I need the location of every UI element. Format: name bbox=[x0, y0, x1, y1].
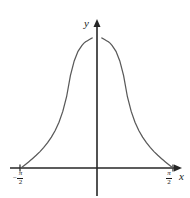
fraction-denominator: 2 bbox=[166, 179, 172, 186]
fraction: π 2 bbox=[17, 170, 23, 186]
fraction: π 2 bbox=[166, 170, 172, 186]
x-axis-label: x bbox=[179, 171, 184, 182]
curve-right-branch bbox=[102, 38, 173, 168]
plot-canvas bbox=[0, 0, 190, 198]
minus-sign: − bbox=[13, 175, 17, 182]
y-axis-label: y bbox=[84, 18, 89, 29]
x-axis bbox=[10, 165, 182, 172]
tick-label-positive-half-pi: π 2 bbox=[166, 170, 172, 186]
y-axis bbox=[94, 19, 101, 196]
fraction-denominator: 2 bbox=[18, 179, 24, 186]
graph-figure: y x − π 2 π 2 bbox=[0, 0, 190, 198]
curve-left-branch bbox=[21, 38, 92, 168]
fraction-numerator: π bbox=[18, 170, 24, 177]
tick-label-negative-half-pi: − π 2 bbox=[13, 170, 23, 186]
fraction-numerator: π bbox=[166, 170, 172, 177]
